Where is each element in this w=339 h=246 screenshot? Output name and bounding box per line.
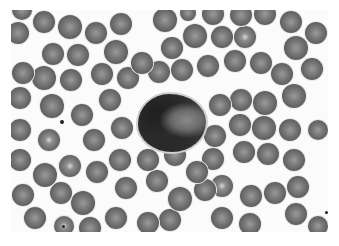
- erythrocyte: [250, 52, 272, 74]
- erythrocyte: [153, 10, 177, 32]
- erythrocyte: [12, 10, 32, 20]
- blood-smear-micrograph: [11, 10, 328, 232]
- erythrocyte: [285, 203, 307, 225]
- erythrocyte: [230, 10, 252, 26]
- erythrocyte: [230, 89, 252, 111]
- erythrocyte: [40, 94, 64, 118]
- debris-particle: [325, 211, 328, 214]
- erythrocyte: [233, 141, 255, 163]
- erythrocyte: [111, 117, 133, 139]
- erythrocyte: [253, 91, 277, 115]
- erythrocyte: [257, 143, 279, 165]
- erythrocyte: [146, 170, 168, 192]
- erythrocyte: [287, 176, 309, 198]
- erythrocyte: [211, 207, 233, 229]
- erythrocyte: [284, 36, 308, 60]
- erythrocyte: [229, 114, 251, 136]
- erythrocyte: [12, 184, 34, 206]
- erythrocyte: [33, 11, 55, 33]
- erythrocyte: [58, 15, 82, 39]
- erythrocyte: [197, 55, 219, 77]
- erythrocyte: [254, 10, 276, 25]
- erythrocyte: [60, 69, 82, 91]
- erythrocyte: [159, 209, 181, 231]
- erythrocyte: [252, 116, 276, 140]
- erythrocyte: [161, 37, 183, 59]
- debris-particle: [60, 120, 64, 124]
- erythrocyte: [282, 84, 306, 108]
- erythrocyte: [83, 129, 105, 151]
- erythrocyte: [85, 22, 107, 44]
- erythrocyte: [131, 52, 153, 74]
- erythrocyte: [71, 191, 95, 215]
- erythrocyte: [301, 58, 323, 80]
- erythrocyte: [86, 161, 108, 183]
- erythrocyte: [110, 13, 132, 35]
- erythrocyte: [264, 182, 286, 204]
- erythrocyte: [105, 207, 127, 229]
- erythrocyte: [183, 24, 207, 48]
- erythrocyte: [308, 120, 328, 140]
- erythrocyte: [11, 119, 31, 141]
- erythrocyte: [202, 10, 224, 25]
- erythrocyte: [308, 216, 328, 232]
- erythrocyte: [42, 43, 64, 65]
- erythrocyte: [280, 11, 302, 33]
- erythrocyte: [137, 149, 159, 171]
- erythrocyte: [209, 94, 231, 116]
- erythrocyte: [239, 213, 261, 232]
- erythrocyte: [50, 182, 72, 204]
- erythrocyte: [11, 87, 31, 109]
- erythrocyte: [279, 119, 301, 141]
- erythrocyte: [109, 149, 131, 171]
- erythrocyte: [180, 10, 196, 21]
- erythrocyte: [234, 26, 256, 48]
- erythrocyte: [211, 26, 233, 48]
- leukocyte: [138, 94, 206, 152]
- erythrocyte: [71, 104, 93, 126]
- erythrocyte: [99, 89, 121, 111]
- erythrocyte: [24, 207, 46, 229]
- erythrocyte: [79, 217, 101, 232]
- erythrocyte: [59, 155, 81, 177]
- erythrocyte: [104, 40, 128, 64]
- debris-particle: [62, 225, 65, 228]
- erythrocyte: [224, 50, 246, 72]
- erythrocyte: [67, 44, 89, 66]
- erythrocyte: [283, 149, 305, 171]
- erythrocyte: [11, 149, 31, 171]
- erythrocyte: [271, 63, 293, 85]
- erythrocyte: [91, 63, 113, 85]
- erythrocyte: [168, 187, 192, 211]
- erythrocyte: [305, 22, 327, 44]
- erythrocyte: [11, 22, 29, 44]
- erythrocyte: [32, 66, 56, 90]
- erythrocyte: [12, 62, 34, 84]
- erythrocyte: [240, 185, 262, 207]
- erythrocyte: [186, 161, 208, 183]
- erythrocyte: [38, 129, 60, 151]
- erythrocyte: [54, 216, 74, 232]
- erythrocyte: [171, 59, 193, 81]
- erythrocyte: [137, 212, 159, 232]
- erythrocyte: [204, 125, 226, 147]
- erythrocyte: [115, 177, 137, 199]
- erythrocyte: [33, 163, 57, 187]
